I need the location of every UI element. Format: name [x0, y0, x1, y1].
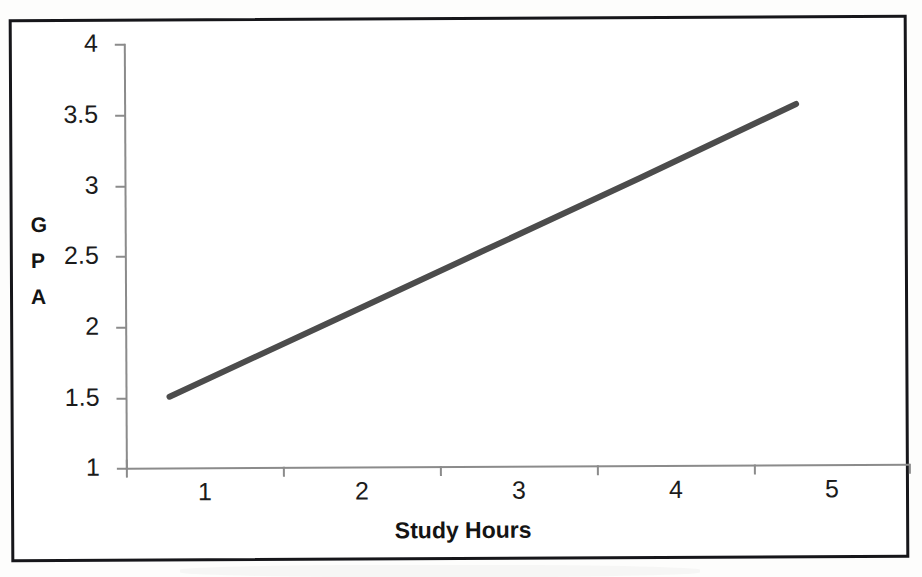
y-axis-title-letter: A: [31, 279, 61, 315]
y-axis-title: G P A: [31, 207, 62, 315]
data-series-gpa: [12, 18, 913, 565]
x-axis-title: Study Hours: [14, 515, 912, 546]
scan-artifact: [180, 565, 700, 577]
scanned-page-surface: 4 3.5 3 2.5 2 1.5 1 1 2 3 4 5: [0, 0, 922, 577]
plot-area: 4 3.5 3 2.5 2 1.5 1 1 2 3 4 5: [12, 18, 913, 565]
y-axis-title-letter: P: [31, 243, 61, 279]
y-axis-title-letter: G: [31, 207, 61, 243]
chart-frame: 4 3.5 3 2.5 2 1.5 1 1 2 3 4 5: [9, 15, 910, 562]
